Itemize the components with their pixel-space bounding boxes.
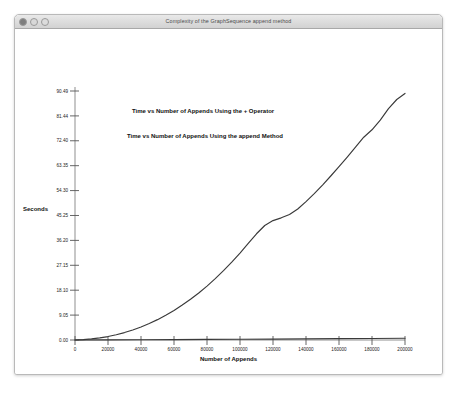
y-tick-label: 9.05 — [59, 313, 68, 318]
x-tick-label: 140000 — [298, 347, 314, 352]
x-tick-label: 40000 — [135, 347, 148, 352]
window-title: Complexity of the GraphSequence append m… — [15, 15, 442, 28]
x-tick-label: 180000 — [364, 347, 380, 352]
y-tick-label: 27.15 — [57, 263, 69, 268]
window-titlebar[interactable]: Complexity of the GraphSequence append m… — [15, 15, 442, 29]
y-tick-label: 90.49 — [57, 89, 69, 94]
y-tick-label: 72.40 — [57, 138, 69, 143]
y-tick-label: 36.20 — [57, 238, 69, 243]
series-line-0 — [75, 93, 405, 340]
y-axis: 0.009.0518.1027.1536.2045.2554.3063.3572… — [57, 87, 80, 343]
x-tick-label: 20000 — [102, 347, 115, 352]
screen-root: Complexity of the GraphSequence append m… — [0, 0, 456, 393]
y-tick-label: 0.00 — [59, 338, 68, 343]
plot-canvas: Seconds Number of Appends Time vs Number… — [15, 29, 442, 374]
x-tick-label: 120000 — [265, 347, 281, 352]
x-tick-label: 0 — [74, 347, 77, 352]
application-window: Complexity of the GraphSequence append m… — [14, 14, 443, 375]
x-tick-label: 160000 — [331, 347, 347, 352]
x-tick-label: 80000 — [201, 347, 214, 352]
y-tick-label: 18.10 — [57, 288, 69, 293]
x-tick-label: 60000 — [168, 347, 181, 352]
x-tick-label: 100000 — [232, 347, 248, 352]
y-tick-label: 81.44 — [57, 114, 69, 119]
y-tick-label: 54.30 — [57, 188, 69, 193]
figure: Seconds Number of Appends Time vs Number… — [15, 29, 442, 374]
series-lines — [75, 93, 405, 340]
y-tick-label: 63.35 — [57, 163, 69, 168]
x-tick-label: 200000 — [397, 347, 413, 352]
y-tick-label: 45.25 — [57, 213, 69, 218]
chart-svg: 0.009.0518.1027.1536.2045.2554.3063.3572… — [15, 29, 442, 374]
